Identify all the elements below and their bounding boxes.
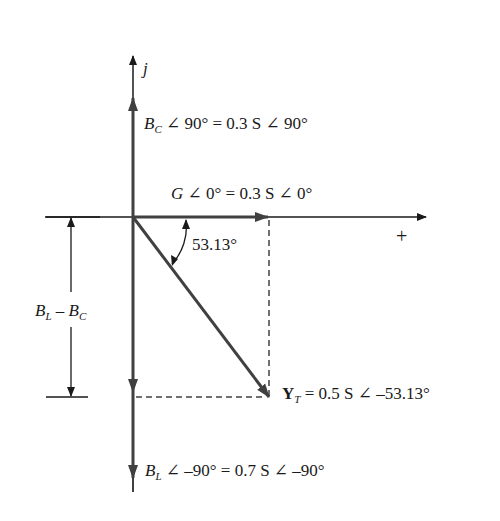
angle-label: 53.13° bbox=[192, 236, 237, 253]
bl-label: BL ∠ –90° = 0.7 S ∠ –90° bbox=[145, 462, 325, 482]
dimension-label: BL – BC bbox=[35, 302, 86, 322]
g-label: G ∠ 0° = 0.3 S ∠ 0° bbox=[171, 185, 312, 202]
diagram-lines bbox=[0, 0, 500, 521]
j-axis-label: j bbox=[143, 60, 148, 77]
plus-axis-label: + bbox=[396, 226, 407, 246]
bc-label: BC ∠ 90° = 0.3 S ∠ 90° bbox=[144, 115, 308, 135]
yt-label: YT = 0.5 S ∠ –53.13° bbox=[282, 385, 430, 405]
phasor-diagram: j BC ∠ 90° = 0.3 S ∠ 90° G ∠ 0° = 0.3 S … bbox=[0, 0, 500, 521]
